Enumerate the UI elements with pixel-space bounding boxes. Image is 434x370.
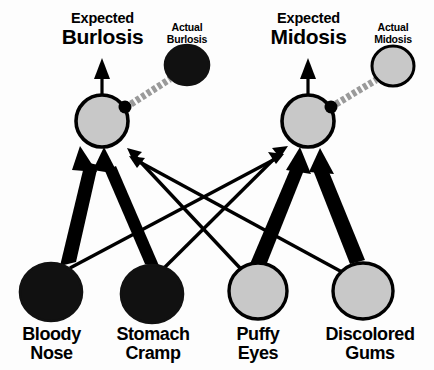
observation-link-midosis (336, 80, 376, 104)
observation-dot-midosis (325, 101, 338, 114)
link-discolored-gums-to-midosis (309, 148, 365, 264)
node-bloody-nose[interactable] (20, 263, 82, 321)
symptom-label-bloody-nose-line1: Bloody (0, 325, 103, 344)
node-discolored-gums[interactable] (333, 263, 393, 319)
symptom-label-puffy-eyes-line1: Puffy (210, 325, 306, 344)
node-actual-midosis[interactable] (372, 46, 414, 86)
output-arrow-midosis (300, 58, 316, 98)
symptom-label-bloody-nose-line2: Nose (0, 344, 103, 363)
network-graphic (0, 0, 434, 370)
actual-midosis-prefix: Actual (353, 22, 433, 33)
link-bloody-nose-to-burlosis (60, 146, 98, 266)
node-stomach-cramp[interactable] (121, 265, 183, 323)
observation-links-group (131, 79, 376, 104)
observation-link-burlosis (131, 79, 170, 104)
symptom-label-puffy-eyes-line2: Eyes (210, 344, 306, 363)
diagram-canvas: Expected Burlosis Actual Burlosis Expect… (0, 0, 434, 370)
observation-dot-burlosis (119, 101, 132, 114)
symptom-label-discolored-gums-line2: Gums (306, 344, 434, 363)
symptom-label-stomach-cramp-line1: Stomach (97, 325, 209, 344)
symptom-label-discolored-gums-line1: Discolored (306, 325, 434, 344)
output-arrow-burlosis (94, 58, 110, 98)
actual-burlosis-prefix: Actual (147, 22, 227, 33)
node-puffy-eyes[interactable] (229, 263, 287, 319)
node-actual-burlosis[interactable] (165, 45, 209, 85)
actual-burlosis-name: Burlosis (147, 34, 227, 45)
actual-midosis-name: Midosis (353, 34, 433, 45)
symptom-label-stomach-cramp-line2: Cramp (97, 344, 209, 363)
